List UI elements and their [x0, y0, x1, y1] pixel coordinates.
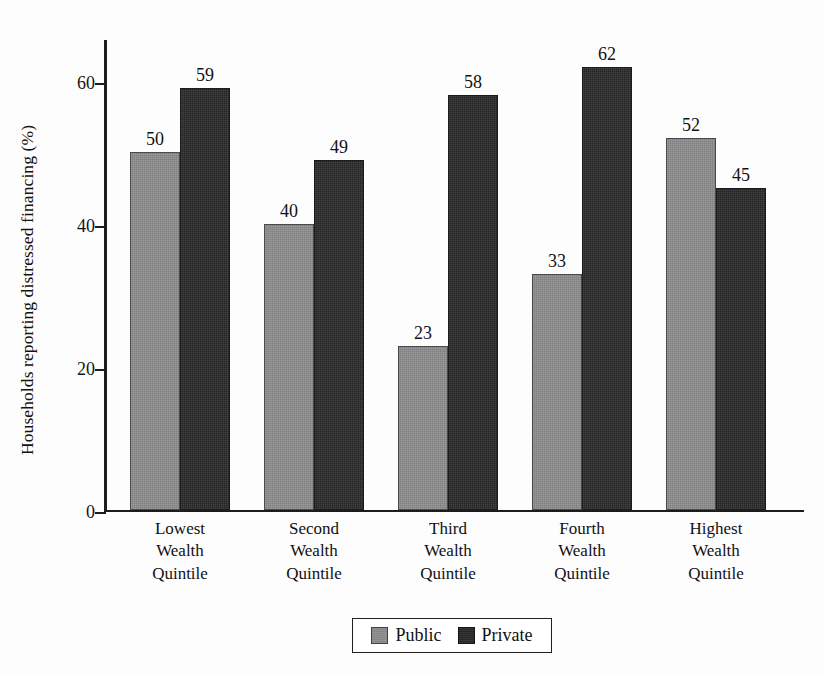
- y-tick-mark: [95, 83, 106, 85]
- bar-private-1[interactable]: 59: [180, 88, 230, 510]
- x-category-label-line: Second: [247, 518, 381, 540]
- legend-swatch-private-icon: [458, 627, 475, 644]
- bar-value-label: 52: [682, 115, 700, 136]
- bar-value-label: 49: [330, 137, 348, 158]
- bar-value-label: 59: [196, 65, 214, 86]
- bar-public-1[interactable]: 50: [130, 152, 180, 510]
- x-category-label-1: LowestWealthQuintile: [113, 518, 247, 585]
- y-tick-label: 0: [86, 502, 95, 523]
- x-category-label-line: Quintile: [649, 563, 783, 585]
- bar-private-5[interactable]: 45: [716, 188, 766, 510]
- y-axis-line: [104, 40, 107, 512]
- bar-value-label: 58: [464, 72, 482, 93]
- bar-value-label: 23: [414, 323, 432, 344]
- legend-item-public[interactable]: Public: [371, 625, 441, 646]
- bar-private-3[interactable]: 58: [448, 95, 498, 510]
- y-tick-label: 20: [77, 358, 95, 379]
- plot-area: 0204060 50594049235833625245: [104, 40, 804, 512]
- y-tick-mark: [95, 369, 106, 371]
- bar-public-2[interactable]: 40: [264, 224, 314, 510]
- bar-value-label: 50: [146, 129, 164, 150]
- legend-label: Public: [395, 625, 441, 646]
- x-category-label-line: Wealth: [381, 540, 515, 562]
- chart-legend: PublicPrivate: [352, 618, 552, 653]
- legend-label: Private: [482, 625, 533, 646]
- x-category-label-line: Wealth: [649, 540, 783, 562]
- x-category-label-line: Highest: [649, 518, 783, 540]
- y-tick-label: 60: [77, 72, 95, 93]
- bar-value-label: 40: [280, 201, 298, 222]
- x-category-label-line: Lowest: [113, 518, 247, 540]
- bar-public-4[interactable]: 33: [532, 274, 582, 510]
- bar-value-label: 45: [732, 165, 750, 186]
- bar-value-label: 33: [548, 251, 566, 272]
- y-tick-label: 40: [77, 215, 95, 236]
- bar-private-2[interactable]: 49: [314, 160, 364, 510]
- x-category-label-line: Quintile: [113, 563, 247, 585]
- y-axis-title: Households reporting distressed financin…: [14, 70, 40, 510]
- x-category-label-line: Fourth: [515, 518, 649, 540]
- x-category-label-3: ThirdWealthQuintile: [381, 518, 515, 585]
- bar-private-4[interactable]: 62: [582, 67, 632, 510]
- bar-value-label: 62: [598, 44, 616, 65]
- x-category-label-line: Third: [381, 518, 515, 540]
- y-tick-mark: [95, 512, 106, 514]
- legend-swatch-public-icon: [371, 627, 388, 644]
- x-category-label-line: Quintile: [515, 563, 649, 585]
- x-category-label-line: Quintile: [381, 563, 515, 585]
- bar-public-3[interactable]: 23: [398, 346, 448, 510]
- x-category-label-line: Wealth: [113, 540, 247, 562]
- y-tick-mark: [95, 226, 106, 228]
- x-category-label-line: Quintile: [247, 563, 381, 585]
- x-category-label-line: Wealth: [515, 540, 649, 562]
- x-category-label-line: Wealth: [247, 540, 381, 562]
- bar-public-5[interactable]: 52: [666, 138, 716, 510]
- x-category-label-4: FourthWealthQuintile: [515, 518, 649, 585]
- x-category-label-5: HighestWealthQuintile: [649, 518, 783, 585]
- legend-item-private[interactable]: Private: [458, 625, 533, 646]
- x-category-label-2: SecondWealthQuintile: [247, 518, 381, 585]
- bar-chart-figure: Households reporting distressed financin…: [0, 0, 825, 676]
